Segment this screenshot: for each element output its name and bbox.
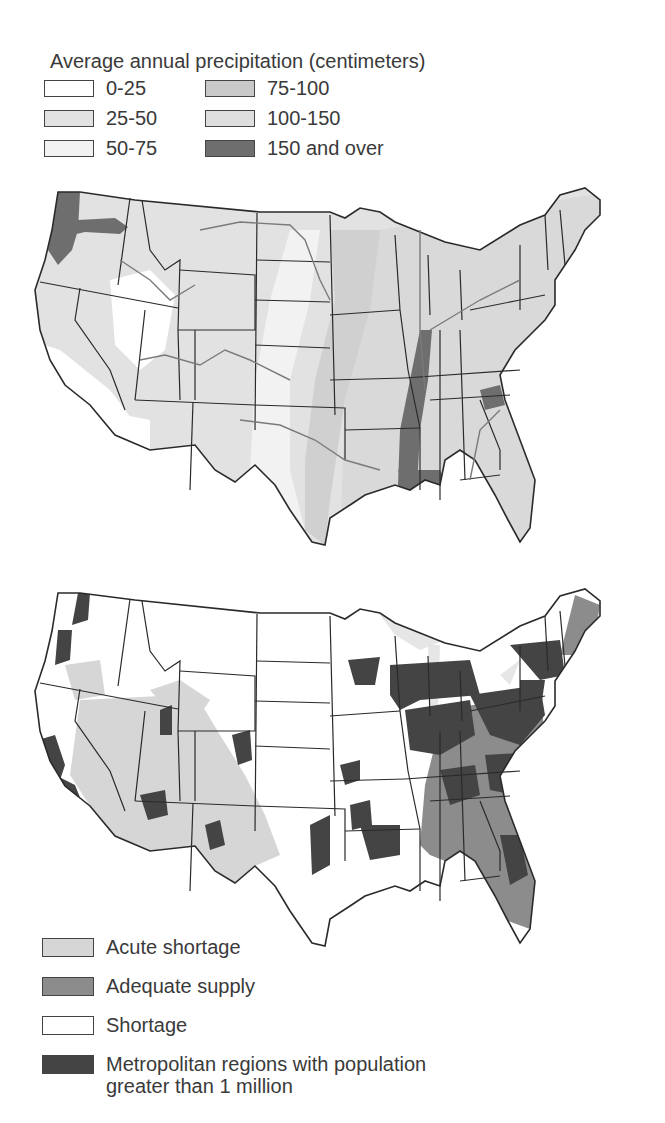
legend-label: 25-50 <box>106 107 157 130</box>
legend-item-acute-shortage: Acute shortage <box>42 936 241 959</box>
legend-label: Shortage <box>106 1014 187 1037</box>
legend-label-line2: greater than 1 million <box>106 1075 426 1097</box>
legend-label: 100-150 <box>267 107 340 130</box>
legend-swatch <box>205 80 255 97</box>
legend-item-100-150: 100-150 <box>205 107 340 130</box>
legend-label: 0-25 <box>106 77 146 100</box>
legend-label: Adequate supply <box>106 975 255 998</box>
legend-label: 75-100 <box>267 77 329 100</box>
legend-item-adequate-supply: Adequate supply <box>42 975 255 998</box>
legend-swatch <box>42 977 94 996</box>
legend-swatch <box>44 140 94 157</box>
legend-swatch <box>205 110 255 127</box>
legend-swatch <box>42 1055 94 1074</box>
legend-item-25-50: 25-50 <box>44 107 157 130</box>
legend-swatch <box>44 80 94 97</box>
legend-label: 50-75 <box>106 137 157 160</box>
legend-label: Acute shortage <box>106 936 241 959</box>
legend-item-metropolitan: Metropolitan regions with population gre… <box>42 1053 426 1097</box>
water-supply-map <box>0 585 665 980</box>
legend-item-0-25: 0-25 <box>44 77 146 100</box>
precipitation-fill <box>0 170 665 560</box>
legend-item-75-100: 75-100 <box>205 77 329 100</box>
water-supply-fill <box>0 585 665 980</box>
legend-swatch <box>205 140 255 157</box>
legend-label: 150 and over <box>267 137 384 160</box>
legend-label: Metropolitan regions with population <box>106 1053 426 1075</box>
legend-swatch <box>44 110 94 127</box>
legend-swatch <box>42 1016 94 1035</box>
legend-item-150-over: 150 and over <box>205 137 384 160</box>
legend-item-shortage: Shortage <box>42 1014 187 1037</box>
legend-swatch <box>42 938 94 957</box>
precipitation-legend-title: Average annual precipitation (centimeter… <box>50 50 425 73</box>
precipitation-map <box>0 170 665 560</box>
legend-item-50-75: 50-75 <box>44 137 157 160</box>
